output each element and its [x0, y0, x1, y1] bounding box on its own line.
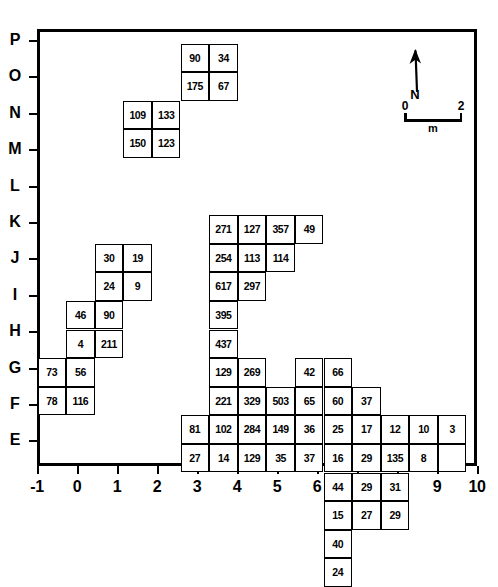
x-tick-label: 5 [257, 478, 297, 496]
grid-cell: 254 [209, 244, 238, 273]
y-tick-label: O [4, 67, 26, 85]
grid-cell: 65 [295, 387, 324, 416]
grid-cell: 56 [66, 358, 95, 387]
y-tick [29, 149, 37, 151]
grid-cell: 269 [238, 358, 267, 387]
grid-cell: 395 [209, 301, 238, 330]
grid-cell: 37 [352, 387, 381, 416]
y-tick [29, 186, 37, 188]
y-tick-label: F [4, 395, 26, 413]
grid-cell: 60 [324, 387, 353, 416]
grid-cell: 617 [209, 272, 238, 301]
x-tick [157, 466, 159, 474]
y-tick [29, 295, 37, 297]
grid-cell: 36 [295, 415, 324, 444]
y-tick-label: J [4, 249, 26, 267]
y-tick [29, 40, 37, 42]
grid-cell: 357 [266, 215, 295, 244]
y-tick-label: H [4, 322, 26, 340]
grid-cell: 15 [324, 501, 353, 530]
north-arrow-glyph [398, 42, 434, 92]
grid-cell: 135 [381, 444, 410, 473]
scale-bar-tick-end [460, 113, 463, 122]
grid-cell: 150 [123, 129, 152, 158]
grid-cell: 27 [181, 444, 210, 473]
grid-cell: 297 [238, 272, 267, 301]
grid-cell: 90 [95, 301, 124, 330]
grid-cell: 123 [152, 129, 181, 158]
y-tick-label: N [4, 104, 26, 122]
grid-cell: 24 [324, 558, 353, 587]
y-tick-label: K [4, 213, 26, 231]
grid-cell: 67 [209, 72, 238, 101]
x-tick-label: 1 [97, 478, 137, 496]
y-tick [29, 368, 37, 370]
grid-cell: 221 [209, 387, 238, 416]
grid-cell: 284 [238, 415, 267, 444]
grid-cell: 114 [266, 244, 295, 273]
grid-cell: 35 [266, 444, 295, 473]
scale-bar-tick-start [404, 113, 407, 122]
y-tick-label: E [4, 431, 26, 449]
grid-cell: 37 [295, 444, 324, 473]
grid-cell: 175 [181, 72, 210, 101]
y-tick [29, 404, 37, 406]
grid-cell: 127 [238, 215, 267, 244]
grid-cell: 211 [95, 330, 124, 359]
grid-cell: 29 [352, 444, 381, 473]
grid-cell: 329 [238, 387, 267, 416]
x-tick-label: 2 [137, 478, 177, 496]
x-tick-label: 3 [177, 478, 217, 496]
y-tick [29, 222, 37, 224]
grid-cell: 16 [324, 444, 353, 473]
grid-cell: 90 [181, 44, 210, 73]
grid-cell: 78 [38, 387, 67, 416]
x-tick-label: 4 [217, 478, 257, 496]
x-tick-label: 10 [457, 478, 497, 496]
grid-cell: 46 [66, 301, 95, 330]
grid-cell: 49 [295, 215, 324, 244]
x-tick-label: 9 [417, 478, 457, 496]
grid-cell: 44 [324, 473, 353, 502]
y-tick [29, 440, 37, 442]
grid-cell: 113 [238, 244, 267, 273]
grid-cell: 29 [352, 473, 381, 502]
x-tick-label: 0 [57, 478, 97, 496]
grid-cell: 437 [209, 330, 238, 359]
y-tick-label: M [4, 140, 26, 158]
y-tick-label: L [4, 177, 26, 195]
grid-cell: 34 [209, 44, 238, 73]
grid-cell: 8 [409, 444, 438, 473]
grid-cell: 40 [324, 530, 353, 559]
grid-cell: 129 [209, 358, 238, 387]
grid-cell: 81 [181, 415, 210, 444]
grid-cell: 66 [324, 358, 353, 387]
y-tick [29, 113, 37, 115]
grid-cell: 27 [352, 501, 381, 530]
y-tick [29, 76, 37, 78]
scale-bar-start-label: 0 [396, 99, 414, 113]
y-tick [29, 331, 37, 333]
grid-cell: 10 [409, 415, 438, 444]
grid-cell: 109 [123, 101, 152, 130]
grid-cell: 14 [209, 444, 238, 473]
y-tick-label: G [4, 359, 26, 377]
north-arrow-icon [398, 42, 434, 92]
x-tick [477, 466, 479, 474]
grid-cell [438, 444, 467, 473]
scale-bar-unit-label: m [424, 122, 442, 134]
grid-cell: 19 [123, 244, 152, 273]
grid-cell: 25 [324, 415, 353, 444]
x-tick [117, 466, 119, 474]
grid-cell: 24 [95, 272, 124, 301]
grid-cell: 4 [66, 330, 95, 359]
y-tick [29, 258, 37, 260]
grid-cell: 149 [266, 415, 295, 444]
grid-cell: 503 [266, 387, 295, 416]
grid-cell: 133 [152, 101, 181, 130]
scale-bar-end-label: 2 [452, 99, 470, 113]
y-tick-label: I [4, 286, 26, 304]
grid-cell: 42 [295, 358, 324, 387]
x-tick [77, 466, 79, 474]
